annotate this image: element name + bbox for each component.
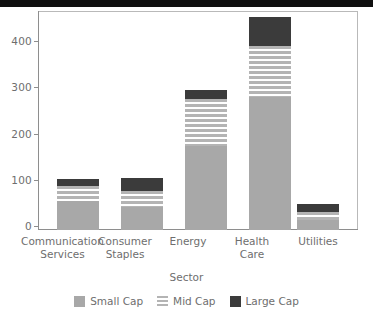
legend-swatch-large-cap-icon [230,296,241,307]
y-tick-label-100: 100 [11,174,32,186]
y-tick-label-300: 300 [11,81,32,93]
x-tick-label-utilities: Utilities [280,235,356,248]
bar-segment-mid-cap[interactable] [185,99,227,146]
bar-segment-large-cap[interactable] [57,179,99,186]
x-tick-label-health-care: Health Care [214,235,290,260]
bar-segment-large-cap[interactable] [297,204,339,211]
bar-energy[interactable] [185,90,227,230]
top-black-band [0,0,373,7]
bar-segment-large-cap[interactable] [121,178,163,191]
legend-label-small-cap: Small Cap [90,295,143,307]
bar-segment-large-cap[interactable] [185,90,227,100]
bar-segment-small-cap[interactable] [185,146,227,230]
bar-segment-mid-cap[interactable] [297,212,339,220]
legend-swatch-mid-cap-icon [157,296,168,307]
bar-segment-small-cap[interactable] [121,207,163,230]
bar-consumer-staples[interactable] [121,178,163,230]
legend-item-small-cap[interactable]: Small Cap [74,295,143,307]
bar-utilities[interactable] [297,204,339,230]
y-tick-label-0: 0 [25,220,32,232]
legend-item-large-cap[interactable]: Large Cap [230,295,299,307]
bar-segment-large-cap[interactable] [249,17,291,46]
legend-item-mid-cap[interactable]: Mid Cap [157,295,215,307]
bar-segment-mid-cap[interactable] [121,191,163,207]
bar-segment-mid-cap[interactable] [249,46,291,97]
bar-segment-mid-cap[interactable] [57,186,99,201]
bar-segment-small-cap[interactable] [57,201,99,230]
legend-label-large-cap: Large Cap [246,295,299,307]
chart-figure: 400 300 200 100 0 Communication Services… [0,7,373,318]
legend: Small Cap Mid Cap Large Cap [0,295,373,307]
plot-area [39,12,357,230]
legend-swatch-small-cap-icon [74,296,85,307]
y-tick-label-200: 200 [11,128,32,140]
bar-segment-small-cap[interactable] [297,220,339,230]
bar-communication-services[interactable] [57,179,99,230]
legend-label-mid-cap: Mid Cap [173,295,215,307]
bar-segment-small-cap[interactable] [249,97,291,230]
x-axis-title: Sector [0,271,373,283]
bar-health-care[interactable] [249,17,291,230]
y-tick-label-400: 400 [11,35,32,47]
